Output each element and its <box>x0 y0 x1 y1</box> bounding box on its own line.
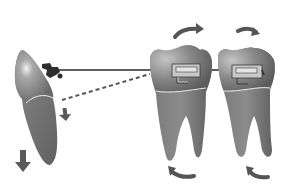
elastic-dashed-line <box>62 74 150 100</box>
small-down-arrow-icon <box>59 108 71 121</box>
rotation-arrow-bottom-1-icon <box>168 166 194 177</box>
diagram-canvas <box>0 0 289 185</box>
orthodontic-diagram <box>0 0 289 185</box>
molar-2 <box>218 48 275 157</box>
large-down-arrow-icon <box>15 150 31 172</box>
rotation-arrow-top-2-icon <box>238 27 260 36</box>
molar-1 <box>150 45 212 161</box>
rotation-arrow-bottom-2-icon <box>246 166 268 177</box>
rotation-arrow-top-1-icon <box>175 23 204 37</box>
